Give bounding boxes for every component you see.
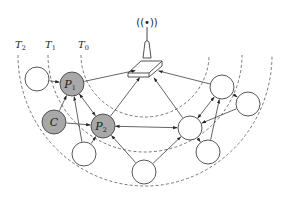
ring-label-t0: T0 — [78, 39, 89, 52]
node-circle — [132, 160, 156, 184]
sensor-nodes: P1CP2 — [25, 67, 260, 184]
node-r1 — [210, 75, 234, 99]
link-r3-r1 — [198, 97, 214, 118]
link-c-p1 — [59, 96, 66, 111]
node-circle — [196, 140, 220, 164]
link-r1-bs — [159, 71, 210, 84]
link-r2-r3 — [202, 109, 237, 123]
link-b1-p1 — [74, 97, 82, 142]
link-r3-b3 — [198, 138, 201, 142]
signal-waves-icon: ((•)) — [136, 17, 158, 28]
node-r3 — [178, 116, 202, 140]
link-r3-bs — [154, 78, 183, 118]
link-b2-p2 — [112, 136, 136, 163]
node-circle — [236, 92, 260, 116]
node-r2 — [236, 92, 260, 116]
network-diagram: T0T1T2 ((•)) P1CP2 — [0, 0, 285, 200]
node-b1 — [72, 142, 96, 166]
link-b1-p2 — [91, 137, 96, 144]
node-b3 — [196, 140, 220, 164]
link-b3-r1 — [211, 100, 220, 140]
node-label: C — [50, 116, 59, 129]
link-p2-bs — [111, 78, 140, 116]
link-p1-p2 — [79, 94, 95, 116]
link-c-p2 — [66, 123, 90, 125]
link-p2-r3 — [115, 126, 177, 127]
node-circle — [210, 75, 234, 99]
node-b2 — [132, 160, 156, 184]
link-b2-r3 — [153, 137, 181, 164]
node-circle — [178, 116, 202, 140]
base-station-icon: ((•)) — [128, 17, 162, 77]
node-circle — [25, 67, 49, 91]
link-w1-p1 — [49, 81, 59, 82]
node-p2: P2 — [91, 114, 115, 138]
ring-label-t2: T2 — [15, 39, 26, 52]
ring-label-t1: T1 — [45, 39, 56, 52]
node-p1: P1 — [60, 72, 84, 96]
level-ring-labels: T0T1T2 — [15, 39, 89, 52]
node-c: C — [42, 110, 66, 134]
node-circle — [72, 142, 96, 166]
node-w1 — [25, 67, 49, 91]
